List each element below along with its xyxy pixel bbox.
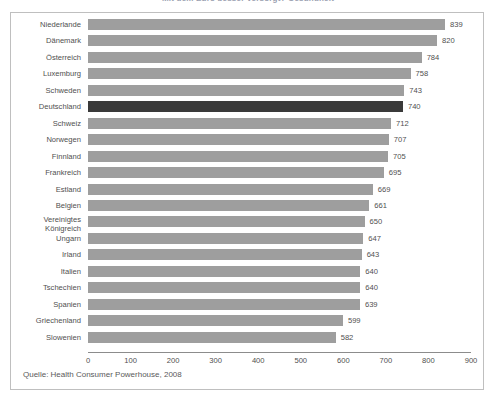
bar-row: Dänemark820: [11, 35, 485, 51]
bar: [88, 200, 369, 211]
value-label: 758: [416, 68, 429, 79]
bar-row: Slowenien582: [11, 332, 485, 348]
bar-row: Finnland705: [11, 151, 485, 167]
bar: [88, 233, 363, 244]
value-label: 784: [427, 52, 440, 63]
category-label: Schweiz: [11, 120, 81, 128]
value-label: 669: [378, 184, 391, 195]
category-label: Spanien: [11, 301, 81, 309]
chart-screenshot: Mit dem Euro besser versorgt? Gesundheit…: [0, 0, 496, 400]
x-axis-line: [88, 352, 471, 353]
bar-row: Irland643: [11, 249, 485, 265]
category-label: Frankreich: [11, 169, 81, 177]
bar-row: Österreich784: [11, 52, 485, 68]
bar: [88, 315, 343, 326]
value-label: 707: [394, 134, 407, 145]
bar-row: Tschechien640: [11, 282, 485, 298]
category-label: Schweden: [11, 87, 81, 95]
category-label: Luxemburg: [11, 70, 81, 78]
bar-row: Italien640: [11, 266, 485, 282]
category-label: Vereinigtes Königreich: [11, 216, 81, 233]
value-label: 820: [442, 35, 455, 46]
category-label: Deutschland: [11, 103, 81, 111]
category-label: Österreich: [11, 54, 81, 62]
bar: [88, 134, 389, 145]
category-label: Finnland: [11, 153, 81, 161]
chart-title: Mit dem Euro besser versorgt? Gesundheit: [0, 0, 496, 3]
value-label: 712: [396, 118, 409, 129]
category-label: Dänemark: [11, 37, 81, 45]
bar: [88, 52, 422, 63]
bar-row: Norwegen707: [11, 134, 485, 150]
chart-panel: Niederlande839Dänemark820Österreich784Lu…: [10, 12, 484, 390]
value-label: 661: [374, 200, 387, 211]
category-label: Estland: [11, 186, 81, 194]
bar: [88, 118, 391, 129]
x-axis-tick-label: 800: [415, 356, 441, 365]
bar: [88, 282, 360, 293]
value-label: 639: [365, 299, 378, 310]
x-axis-tick-label: 200: [160, 356, 186, 365]
x-axis-tick-label: 600: [330, 356, 356, 365]
value-label: 695: [389, 167, 402, 178]
bar: [88, 249, 362, 260]
value-label: 640: [365, 266, 378, 277]
x-axis-tick-label: 300: [203, 356, 229, 365]
x-axis-tick-label: 400: [245, 356, 271, 365]
bar-row: Belgien661: [11, 200, 485, 216]
x-axis-tick-label: 700: [373, 356, 399, 365]
bar: [88, 216, 365, 227]
bar: [88, 151, 388, 162]
bar: [88, 68, 411, 79]
x-axis-tick-label: 0: [75, 356, 101, 365]
value-label: 839: [450, 19, 463, 30]
x-axis-tick-label: 100: [118, 356, 144, 365]
value-label: 599: [348, 315, 361, 326]
bar: [88, 35, 437, 46]
bar-row: Vereinigtes Königreich650: [11, 216, 485, 232]
bar-row: Ungarn647: [11, 233, 485, 249]
x-axis-tick-label: 500: [288, 356, 314, 365]
bar: [88, 19, 445, 30]
bar-row: Spanien639: [11, 299, 485, 315]
value-label: 650: [370, 216, 383, 227]
bar-row: Schweiz712: [11, 118, 485, 134]
value-label: 582: [341, 332, 354, 343]
value-label: 640: [365, 282, 378, 293]
category-label: Belgien: [11, 202, 81, 210]
category-label: Griechenland: [11, 317, 81, 325]
bar-row: Frankreich695: [11, 167, 485, 183]
category-label: Slowenien: [11, 334, 81, 342]
bar-row: Deutschland740: [11, 101, 485, 117]
bar: [88, 266, 360, 277]
bar-highlighted: [88, 101, 403, 112]
bar: [88, 167, 384, 178]
bar-row: Griechenland599: [11, 315, 485, 331]
value-label: 647: [368, 233, 381, 244]
bar-row: Estland669: [11, 184, 485, 200]
category-label: Norwegen: [11, 136, 81, 144]
category-label: Italien: [11, 268, 81, 276]
value-label: 643: [367, 249, 380, 260]
value-label: 740: [408, 101, 421, 112]
bar-row: Luxemburg758: [11, 68, 485, 84]
value-label: 743: [409, 85, 422, 96]
bar: [88, 299, 360, 310]
plot-area: Niederlande839Dänemark820Österreich784Lu…: [11, 13, 485, 391]
bar: [88, 332, 336, 343]
category-label: Tschechien: [11, 284, 81, 292]
x-axis-tick-label: 900: [458, 356, 484, 365]
category-label: Ungarn: [11, 235, 81, 243]
source-note: Quelle: Health Consumer Powerhouse, 2008: [23, 370, 182, 379]
category-label: Niederlande: [11, 21, 81, 29]
bar: [88, 85, 404, 96]
bar-row: Schweden743: [11, 85, 485, 101]
bar-row: Niederlande839: [11, 19, 485, 35]
value-label: 705: [393, 151, 406, 162]
bar: [88, 184, 373, 195]
category-label: Irland: [11, 251, 81, 259]
